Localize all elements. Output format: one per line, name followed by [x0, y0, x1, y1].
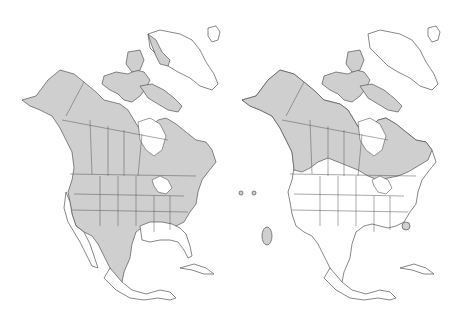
ellesmere-island: [126, 50, 144, 72]
southeast-us: [140, 222, 192, 258]
range-map-right: [232, 0, 464, 317]
cuba: [180, 264, 214, 274]
cuba: [400, 264, 434, 274]
north-america-map-right: [232, 0, 464, 317]
ellesmere-island: [346, 50, 364, 72]
iceland: [208, 26, 220, 42]
north-america-map-left: [0, 0, 232, 317]
wyoming-range-patch: [252, 191, 256, 195]
iceland: [428, 26, 440, 42]
carolina-range-patch: [402, 222, 410, 230]
range-map-left: [0, 0, 232, 317]
arizona-range-patch: [262, 227, 272, 245]
baffin-island: [360, 84, 402, 112]
greenland: [368, 30, 438, 90]
baffin-island: [140, 84, 182, 112]
idaho-range-patch: [239, 191, 243, 195]
